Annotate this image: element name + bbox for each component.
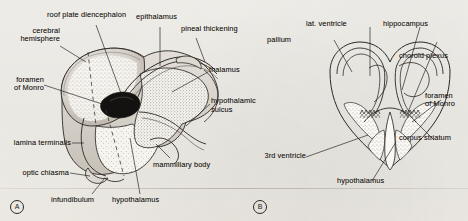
anatomical-figure: roof plate diencephalon epithalamus pine…	[0, 0, 468, 221]
label-pineal-thickening: pineal thickening	[181, 25, 238, 33]
label-hypothalamic-sulcus-line2: sulcus	[211, 106, 233, 114]
label-hypothalamus-a: hypothalamus	[112, 196, 159, 204]
label-infundibulum: infundibulum	[51, 196, 94, 204]
label-epithalamus: epithalamus	[136, 13, 177, 21]
label-pallium: pallium	[267, 36, 291, 44]
label-roof-plate-diencephalon: roof plate diencephalon	[47, 11, 126, 19]
panel-letter-a: A	[10, 200, 24, 214]
label-mammillary-body: mammillary body	[153, 161, 210, 169]
label-lamina-terminalis: lamina terminalis	[0, 139, 71, 147]
label-hypothalamus-b: hypothalamus	[337, 177, 384, 185]
label-third-ventricle: 3rd ventricle	[250, 152, 306, 160]
scan-edge-line	[0, 188, 468, 189]
label-foramen-of-monro-b-line2: of Monro	[425, 100, 455, 108]
label-foramen-of-monro-line2: of Monro	[0, 84, 44, 92]
label-cerebral-hemisphere-line2: hemisphere	[0, 35, 60, 43]
panel-letter-b: B	[253, 200, 267, 214]
label-lateral-ventricle: lat. ventricle	[306, 20, 347, 28]
label-choroid-plexus: choroid plexus	[399, 52, 448, 60]
label-thalamus: thalamus	[209, 66, 240, 74]
label-corpus-striatum: corpus striatum	[399, 134, 451, 142]
label-hippocampus: hippocampus	[383, 20, 428, 28]
label-optic-chiasma: optic chiasma	[0, 169, 69, 177]
